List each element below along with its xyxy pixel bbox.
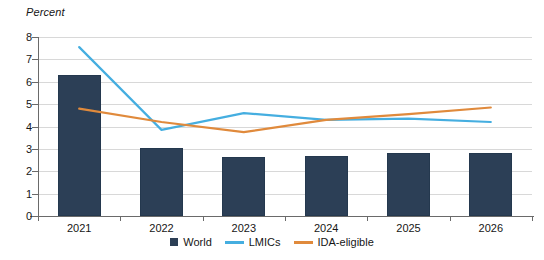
gridline [38, 37, 532, 38]
y-axis-tick-label: 8 [8, 31, 32, 43]
legend-square-icon [170, 238, 178, 246]
x-axis-tick-label: 2023 [232, 222, 256, 234]
gridline [38, 149, 532, 150]
gridline [38, 171, 532, 172]
y-tick-mark [32, 82, 38, 83]
y-axis-tick-labels: 012345678 [4, 0, 32, 260]
x-tick-mark [450, 216, 451, 221]
y-tick-mark [32, 59, 38, 60]
bar [58, 75, 101, 216]
y-axis-tick-label: 2 [8, 165, 32, 177]
x-axis-line [30, 216, 534, 217]
y-axis-line [38, 37, 39, 217]
plot-area [38, 37, 532, 216]
y-tick-mark [32, 37, 38, 38]
x-axis-tick-label: 2024 [314, 222, 338, 234]
legend-item: LMICs [225, 236, 281, 248]
y-axis-tick-label: 7 [8, 53, 32, 65]
x-tick-mark [120, 216, 121, 221]
legend-item-label: LMICs [249, 236, 281, 248]
chart-container: Percent 012345678 2021202220232024202520… [0, 0, 544, 260]
bar [140, 148, 183, 216]
y-tick-mark [32, 127, 38, 128]
x-tick-mark [285, 216, 286, 221]
y-tick-mark [32, 216, 38, 217]
x-axis-tick-label: 2021 [67, 222, 91, 234]
y-tick-mark [32, 171, 38, 172]
y-axis-tick-label: 6 [8, 76, 32, 88]
y-tick-mark [32, 149, 38, 150]
gridline [38, 127, 532, 128]
legend-item-label: IDA-eligible [318, 236, 374, 248]
legend-item: World [170, 236, 212, 248]
bar [222, 157, 265, 216]
gridline [38, 59, 532, 60]
y-axis-tick-label: 1 [8, 188, 32, 200]
x-tick-mark [203, 216, 204, 221]
y-tick-mark [32, 194, 38, 195]
x-axis-tick-label: 2026 [479, 222, 503, 234]
x-axis-tick-label: 2025 [396, 222, 420, 234]
x-axis-tick-label: 2022 [149, 222, 173, 234]
gridline [38, 104, 532, 105]
y-axis-tick-label: 4 [8, 121, 32, 133]
legend-line-icon [294, 241, 313, 244]
legend-item: IDA-eligible [294, 236, 374, 248]
x-tick-mark [367, 216, 368, 221]
chart-legend: WorldLMICsIDA-eligible [0, 236, 544, 248]
gridline [38, 82, 532, 83]
bar [469, 153, 512, 216]
gridline [38, 194, 532, 195]
bar [305, 156, 348, 216]
x-tick-mark [532, 216, 533, 221]
y-axis-tick-label: 0 [8, 210, 32, 222]
y-tick-mark [32, 104, 38, 105]
x-tick-mark [38, 216, 39, 221]
legend-line-icon [225, 241, 244, 244]
legend-item-label: World [183, 236, 212, 248]
y-axis-tick-label: 5 [8, 98, 32, 110]
y-axis-tick-label: 3 [8, 143, 32, 155]
bar [387, 153, 430, 216]
